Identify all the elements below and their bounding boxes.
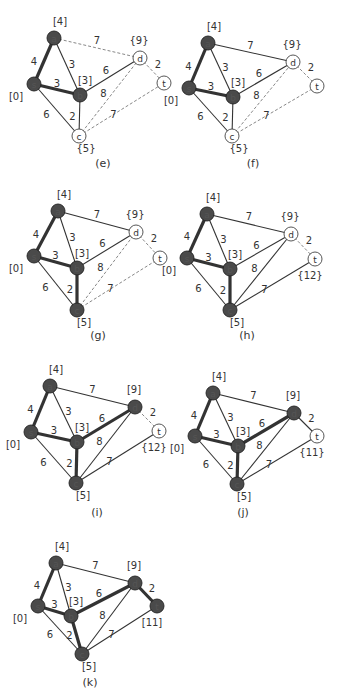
- edge-c-d: [79, 58, 140, 136]
- node-label-c: c: [74, 479, 79, 489]
- edge-weight-s-a: 4: [33, 229, 39, 240]
- distance-label-c: [5]: [76, 490, 90, 501]
- edge-weight-s-a: 4: [184, 231, 190, 242]
- edge-weight-c-t: 7: [263, 110, 269, 121]
- edge-weight-c-d: 8: [96, 436, 102, 447]
- node-label-b: b: [230, 93, 236, 103]
- node-label-t: t: [157, 427, 161, 437]
- edges: 4363762872: [31, 35, 164, 136]
- edge-weight-b-c: 2: [66, 630, 72, 641]
- distance-label-d: {9}: [280, 211, 299, 222]
- distance-label-d: {9}: [125, 209, 144, 220]
- distance-label-a: [4]: [53, 16, 67, 27]
- nodes: s[0]a[4]b[3]c{5}d{9}t: [164, 21, 324, 154]
- edge-c-d: [232, 62, 293, 136]
- distance-label-c: {5}: [76, 143, 95, 154]
- distance-label-b: [3]: [78, 75, 92, 86]
- distance-label-t: {11}: [299, 447, 324, 458]
- caption-h: (h): [217, 329, 277, 342]
- edge-weight-b-d: 6: [99, 238, 105, 249]
- distance-label-s: [0]: [164, 95, 178, 106]
- edge-weight-s-c: 6: [43, 109, 49, 120]
- node-label-b: b: [235, 442, 241, 452]
- edge-weight-s-c: 6: [42, 282, 48, 293]
- edge-weight-s-b: 3: [52, 250, 58, 261]
- graph-j: 4363762872s[0]a[4]b[3]c[5]d[9]t{11}: [172, 370, 343, 555]
- edge-weight-s-a: 4: [27, 404, 33, 415]
- node-label-d: d: [132, 579, 138, 589]
- edge-weight-s-b: 3: [51, 599, 57, 610]
- node-label-d: d: [132, 403, 138, 413]
- distance-label-s: [0]: [9, 91, 23, 102]
- node-label-b: b: [68, 612, 74, 622]
- edge-weight-s-a: 4: [31, 56, 37, 67]
- distance-label-a: [4]: [212, 371, 226, 382]
- distance-label-d: [9]: [127, 384, 141, 395]
- edge-weight-b-d: 6: [96, 588, 102, 599]
- distance-label-s: [0]: [6, 439, 20, 450]
- distance-label-d: [9]: [127, 560, 141, 571]
- node-label-d: d: [288, 230, 294, 240]
- edges: 4363762872: [184, 211, 315, 310]
- distance-label-b: [3]: [75, 248, 89, 259]
- node-label-t: t: [313, 255, 317, 265]
- node-label-d: d: [291, 409, 297, 419]
- node-label-d: d: [133, 228, 139, 238]
- edge-weight-b-d: 6: [259, 418, 265, 429]
- edge-weight-d-t: 2: [155, 59, 161, 70]
- panel-g: 4363762872s[0]a[4]b[3]c[5]d{9}t (g): [0, 185, 172, 370]
- edge-weight-b-d: 6: [256, 68, 262, 79]
- edges: 4363762872: [33, 209, 160, 311]
- edge-weight-c-t: 7: [107, 283, 113, 294]
- edge-weight-c-t: 7: [106, 456, 112, 467]
- caption-g: (g): [68, 329, 128, 342]
- edge-weight-a-d: 7: [92, 560, 98, 571]
- edge-c-t: [232, 86, 317, 136]
- node-label-s: s: [29, 428, 34, 438]
- graph-h: 4363762872s[0]a[4]b[3]c[5]d{9}t{12}: [172, 185, 343, 370]
- panel-k: 4363762872s[0]a[4]b[3]c[5]d[9]t[11] (k): [0, 545, 172, 694]
- edge-weight-b-c: 2: [222, 112, 228, 123]
- node-label-a: a: [53, 559, 59, 569]
- node-label-a: a: [205, 39, 211, 49]
- nodes: s[0]a[4]b[3]c[5]d[9]t{12}: [6, 364, 167, 501]
- node-label-t: t: [315, 82, 319, 92]
- node-label-t: t: [315, 432, 319, 442]
- caption-f: (f): [223, 157, 283, 170]
- distance-label-b: [3]: [69, 596, 83, 607]
- edge-c-d: [82, 583, 135, 654]
- edge-weight-a-d: 7: [247, 40, 253, 51]
- distance-label-t: [11]: [142, 617, 163, 628]
- edge-weight-s-b: 3: [51, 425, 57, 436]
- distance-label-c: [5]: [77, 317, 91, 328]
- edge-weight-c-d: 8: [99, 610, 105, 621]
- edge-s-a: [31, 386, 50, 432]
- distance-label-c: {5}: [229, 143, 248, 154]
- edge-weight-s-c: 6: [195, 283, 201, 294]
- edge-c-t: [230, 259, 315, 310]
- distance-label-b: [3]: [75, 422, 89, 433]
- distance-label-s: [0]: [162, 265, 176, 276]
- distance-label-c: [5]: [230, 317, 244, 328]
- edge-weight-a-b: 3: [222, 62, 228, 73]
- edge-weight-s-a: 4: [191, 410, 197, 421]
- edge-c-t: [82, 606, 157, 654]
- distance-label-d: [9]: [286, 390, 300, 401]
- node-label-c: c: [235, 480, 240, 490]
- edge-weight-b-c: 2: [66, 458, 72, 469]
- distance-label-t: {12}: [141, 442, 166, 453]
- node-label-b: b: [77, 91, 83, 101]
- graph-i: 4363762872s[0]a[4]b[3]c[5]d[9]t{12}: [0, 370, 172, 555]
- edge-weight-a-d: 7: [246, 211, 252, 222]
- edges: 4363762872: [191, 390, 317, 484]
- edge-c-d: [230, 234, 291, 310]
- distance-label-a: [4]: [55, 541, 69, 552]
- edge-c-d: [76, 407, 135, 483]
- panel-j: 4363762872s[0]a[4]b[3]c[5]d[9]t{11} (j): [172, 370, 343, 555]
- distance-label-b: [3]: [231, 77, 245, 88]
- edge-c-t: [79, 83, 164, 136]
- node-label-s: s: [32, 252, 37, 262]
- graph-g: 4363762872s[0]a[4]b[3]c[5]d{9}t: [0, 185, 172, 370]
- edge-weight-s-b: 3: [54, 78, 60, 89]
- edge-weight-s-c: 6: [203, 459, 209, 470]
